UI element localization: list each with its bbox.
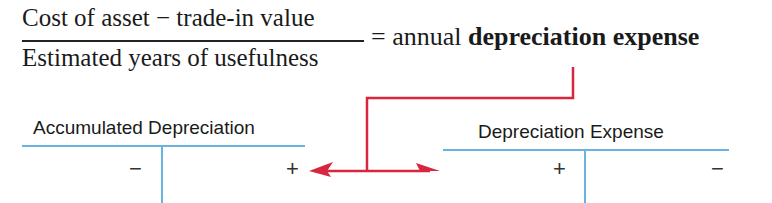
connector-arrows bbox=[0, 0, 772, 203]
arrow-right-icon bbox=[416, 163, 440, 171]
arrow-left-icon bbox=[309, 162, 333, 177]
connector-line bbox=[318, 67, 573, 171]
